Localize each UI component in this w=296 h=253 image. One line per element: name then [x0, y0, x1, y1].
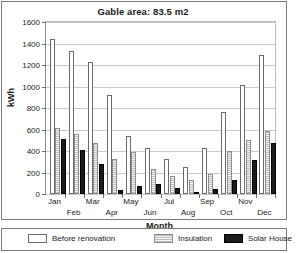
bar	[259, 55, 264, 194]
plot-area: 16001400120010008006004002000	[45, 21, 276, 195]
y-axis-tick-label: 1000	[22, 82, 40, 91]
bar-group	[237, 22, 256, 194]
bar	[170, 176, 175, 194]
y-axis-tick-label: 1600	[22, 18, 40, 27]
x-axis-tick-label: Dec	[257, 208, 271, 217]
x-axis-tick-label: Jul	[164, 197, 174, 206]
bar-group	[180, 22, 199, 194]
bar	[227, 151, 232, 194]
bar	[93, 143, 98, 194]
bar	[145, 148, 150, 194]
x-axis-tick	[161, 194, 162, 198]
bar-group	[161, 22, 180, 194]
x-axis-tick-label: Sep	[200, 197, 214, 206]
y-axis-tick-label: 800	[27, 104, 40, 113]
legend-label: Before renovation	[52, 234, 115, 243]
bar	[151, 169, 156, 194]
bar	[69, 51, 74, 194]
bar	[112, 159, 117, 194]
legend-label: Insulation	[178, 234, 212, 243]
x-axis-tick	[141, 194, 142, 198]
legend-entry: Solar House	[224, 234, 292, 243]
x-axis-tick	[65, 194, 66, 198]
y-axis-tick-label: 200	[27, 168, 40, 177]
bar-group	[199, 22, 218, 194]
bar	[50, 39, 55, 194]
legend-entry: Before renovation	[28, 234, 115, 243]
chart-title: Gable area: 83.5 m2	[0, 6, 286, 17]
y-axis-tick-label: 1400	[22, 39, 40, 48]
bar	[265, 131, 270, 194]
bar	[107, 95, 112, 194]
x-axis-tick	[275, 194, 276, 198]
bar	[74, 134, 79, 194]
y-axis-tick-label: 0	[36, 190, 40, 199]
legend-label: Solar House	[248, 234, 292, 243]
bar	[189, 180, 194, 194]
y-axis-tick-label: 1200	[22, 61, 40, 70]
bar-group	[256, 22, 275, 194]
bar	[88, 62, 93, 194]
y-axis-title: kWh	[6, 88, 16, 107]
x-axis-tick-label: Oct	[220, 208, 232, 217]
bar-group	[46, 22, 65, 194]
x-axis-tick	[256, 194, 257, 198]
y-axis-tick-label: 400	[27, 147, 40, 156]
legend-entry: Insulation	[154, 234, 212, 243]
bar-group	[84, 22, 103, 194]
bar-group	[65, 22, 84, 194]
bar	[202, 148, 207, 194]
legend-swatch-insulation	[154, 234, 173, 243]
chart-figure: Gable area: 83.5 m2 kWh 1600140012001000…	[0, 0, 296, 253]
bar-group	[103, 22, 122, 194]
y-axis-tick	[42, 194, 46, 195]
x-axis-tick-label: Jan	[48, 197, 61, 206]
bar-group	[122, 22, 141, 194]
x-axis-tick	[103, 194, 104, 198]
bar-group	[141, 22, 160, 194]
x-axis-tick-label: Jun	[144, 208, 157, 217]
legend-swatch-solar	[224, 234, 243, 243]
bar	[271, 143, 276, 194]
bar	[246, 140, 251, 194]
x-axis-tick-label: Nov	[238, 197, 252, 206]
bar-group	[218, 22, 237, 194]
bar	[55, 128, 60, 194]
legend-swatch-before	[28, 234, 47, 243]
x-axis-tick	[180, 194, 181, 198]
y-axis-tick-label: 600	[27, 125, 40, 134]
x-axis-tick-label: Apr	[106, 208, 118, 217]
bar	[208, 174, 213, 194]
bar	[131, 152, 136, 194]
x-axis-tick	[218, 194, 219, 198]
bar	[126, 136, 131, 194]
bar	[183, 167, 188, 194]
x-axis-tick-label: Feb	[67, 208, 81, 217]
x-axis-tick-label: Mar	[86, 197, 100, 206]
x-axis-tick-label: Aug	[181, 208, 195, 217]
bar	[164, 159, 169, 194]
chart-legend: Before renovationInsulationSolar House	[1, 228, 287, 251]
bar	[221, 112, 226, 194]
bar	[240, 85, 245, 194]
x-axis-tick-label: May	[123, 197, 138, 206]
